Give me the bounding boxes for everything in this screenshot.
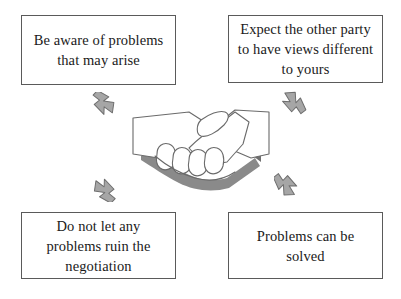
arrow-down-left-icon — [275, 88, 309, 122]
arrow-up-right-icon — [88, 168, 122, 202]
concept-box-bottom-right-text: Problems can be solved — [237, 226, 374, 266]
concept-box-top-right-text: Expect the other party to have views dif… — [237, 19, 374, 79]
concept-box-top-right: Expect the other party to have views dif… — [228, 15, 383, 83]
concept-box-bottom-left: Do not let any problems ruin the negotia… — [21, 212, 176, 279]
diagram-canvas: Be aware of problems that may arise Expe… — [0, 0, 401, 299]
concept-box-top-left-text: Be aware of problems that may arise — [30, 30, 167, 70]
handshake-icon — [131, 96, 271, 200]
concept-box-top-left: Be aware of problems that may arise — [21, 15, 176, 85]
concept-box-bottom-left-text: Do not let any problems ruin the negotia… — [30, 216, 167, 276]
arrow-up-left-icon — [274, 168, 308, 202]
arrow-down-right-icon — [88, 92, 122, 126]
concept-box-bottom-right: Problems can be solved — [228, 212, 383, 279]
